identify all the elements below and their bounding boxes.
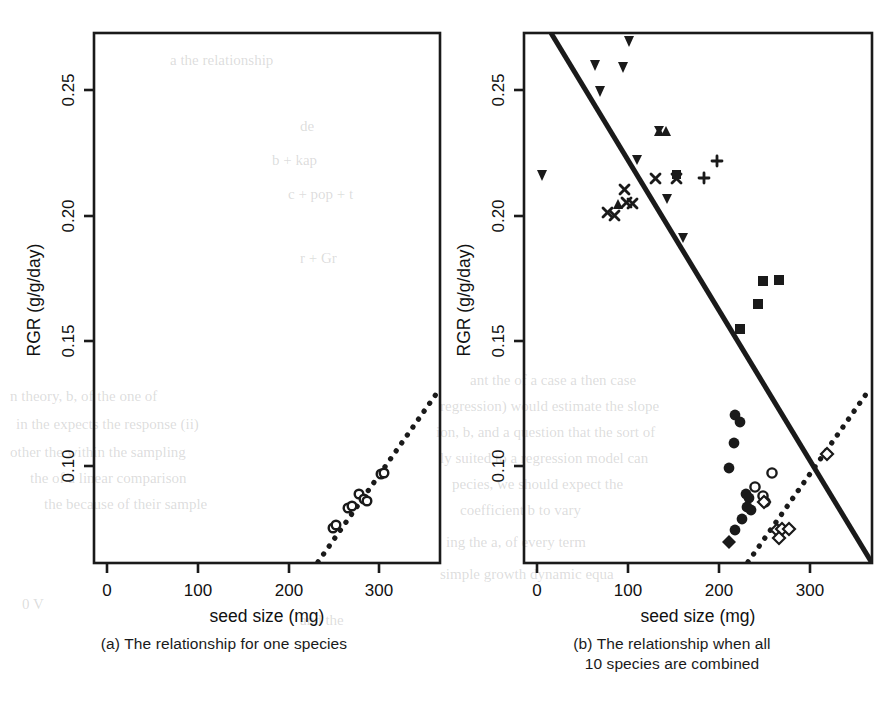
data-point bbox=[662, 194, 672, 204]
data-point bbox=[744, 493, 755, 504]
x-axis-title-a: seed size (mg) bbox=[210, 606, 325, 626]
x-axis-tick-labels-a: 0 100 200 300 bbox=[102, 581, 393, 600]
figure-container: a the relationship de b + kap c + pop + … bbox=[0, 0, 896, 716]
x-axis-tick-labels-b: 0 100 200 300 bbox=[532, 581, 824, 600]
x-tick-label: 100 bbox=[184, 581, 212, 600]
data-point bbox=[774, 275, 784, 285]
x-tick-label: 0 bbox=[532, 581, 541, 600]
y-axis-tick-labels-b: 0.25 0.20 0.15 0.10 bbox=[489, 73, 508, 482]
y-tick-label: 0.25 bbox=[59, 73, 78, 106]
data-points-on-line bbox=[632, 155, 688, 243]
data-point bbox=[632, 155, 642, 165]
panel-b-caption-line1: (b) The relationship when all bbox=[448, 634, 896, 654]
panel-a-caption: (a) The relationship for one species bbox=[0, 634, 448, 654]
x-axis-title-b: seed size (mg) bbox=[641, 606, 756, 626]
data-point bbox=[672, 170, 681, 179]
data-point bbox=[758, 276, 768, 286]
x-axis-ticks-b bbox=[537, 563, 810, 573]
y-tick-label: 0.20 bbox=[59, 199, 78, 232]
y-axis-title-a: RGR (g/g/day) bbox=[24, 244, 44, 357]
x-tick-label: 200 bbox=[275, 581, 303, 600]
panel-b: 0.25 0.20 0.15 0.10 RGR (g/g/day) 0 100 … bbox=[448, 0, 896, 716]
data-points-up-triangle bbox=[613, 126, 671, 209]
data-point bbox=[624, 36, 634, 47]
data-points-plus bbox=[699, 156, 722, 183]
x-tick-label: 0 bbox=[102, 581, 111, 600]
y-tick-label: 0.20 bbox=[489, 199, 508, 232]
data-point bbox=[537, 170, 547, 181]
data-point bbox=[590, 60, 600, 71]
x-axis-ticks-a bbox=[107, 563, 379, 573]
data-point bbox=[363, 497, 372, 506]
data-point bbox=[332, 521, 341, 530]
data-point bbox=[735, 324, 745, 334]
data-points-filled-square bbox=[672, 170, 784, 334]
panel-b-plot: 0.25 0.20 0.15 0.10 RGR (g/g/day) 0 100 … bbox=[448, 0, 896, 716]
data-point bbox=[729, 438, 740, 449]
plot-frame-a bbox=[94, 33, 440, 563]
data-point bbox=[699, 173, 709, 183]
y-tick-label: 0.10 bbox=[489, 449, 508, 482]
data-point bbox=[724, 463, 735, 474]
y-tick-label: 0.15 bbox=[489, 324, 508, 357]
panel-a-plot: 0.25 0.20 0.15 0.10 RGR (g/g/day) 0 100 … bbox=[0, 0, 448, 716]
y-tick-label: 0.15 bbox=[59, 324, 78, 357]
data-point bbox=[618, 62, 628, 73]
x-tick-label: 300 bbox=[796, 581, 824, 600]
panel-a-caption-line1: (a) The relationship for one species bbox=[0, 634, 448, 654]
data-point bbox=[737, 514, 748, 525]
data-point bbox=[712, 156, 722, 166]
data-point bbox=[730, 525, 741, 536]
data-point bbox=[750, 482, 759, 491]
y-axis-ticks-a bbox=[84, 90, 94, 466]
data-point bbox=[767, 468, 776, 477]
trendline-dotted-b bbox=[748, 390, 869, 562]
data-point bbox=[753, 299, 763, 309]
y-tick-label: 0.25 bbox=[489, 73, 508, 106]
x-tick-label: 200 bbox=[705, 581, 733, 600]
data-points-a bbox=[329, 469, 389, 533]
data-point bbox=[348, 502, 357, 511]
plot-frame-b bbox=[524, 33, 872, 563]
data-point bbox=[620, 185, 629, 194]
trendline-solid-b bbox=[551, 33, 872, 563]
data-points-filled-circle bbox=[724, 410, 757, 536]
data-point bbox=[746, 505, 757, 516]
x-tick-label: 100 bbox=[614, 581, 642, 600]
x-tick-label: 300 bbox=[365, 581, 393, 600]
panel-b-caption: (b) The relationship when all 10 species… bbox=[448, 634, 896, 674]
y-axis-ticks-b bbox=[514, 90, 524, 466]
data-point bbox=[651, 174, 660, 183]
data-points-filled-diamond bbox=[722, 535, 736, 549]
y-axis-tick-labels-a: 0.25 0.20 0.15 0.10 bbox=[59, 73, 78, 482]
data-point bbox=[380, 469, 389, 478]
data-point bbox=[722, 535, 736, 549]
y-axis-title-b: RGR (g/g/day) bbox=[454, 244, 474, 357]
y-tick-label: 0.10 bbox=[59, 449, 78, 482]
data-point bbox=[735, 417, 746, 428]
panel-a: 0.25 0.20 0.15 0.10 RGR (g/g/day) 0 100 … bbox=[0, 0, 448, 716]
data-points-down-triangle bbox=[537, 36, 634, 181]
panel-b-caption-line2: 10 species are combined bbox=[448, 654, 896, 674]
data-point bbox=[595, 86, 605, 97]
